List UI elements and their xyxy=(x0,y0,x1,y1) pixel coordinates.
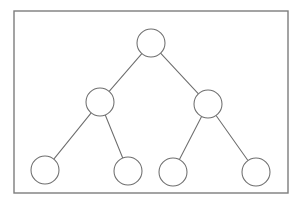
tree-node-left[interactable] xyxy=(86,88,114,116)
tree-node-right[interactable] xyxy=(194,90,222,118)
tree-node-leaf4[interactable] xyxy=(242,158,270,186)
diagram-canvas xyxy=(0,0,302,206)
tree-node-root[interactable] xyxy=(137,29,165,57)
tree-node-leaf1[interactable] xyxy=(31,156,59,184)
tree-diagram xyxy=(0,0,302,206)
tree-node-leaf3[interactable] xyxy=(159,158,187,186)
tree-node-leaf2[interactable] xyxy=(114,157,142,185)
